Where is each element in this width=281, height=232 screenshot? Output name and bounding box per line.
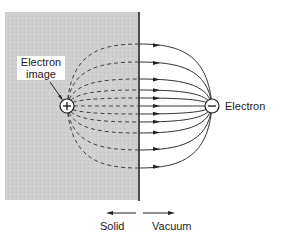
electron-label: Electron — [225, 100, 265, 112]
vacuum-field-lines — [139, 44, 212, 168]
electron-image-label-line1: Electron — [18, 56, 64, 68]
field-direction-arrows — [153, 43, 160, 169]
electron-image-charge — [60, 99, 74, 113]
solid-direction-arrow — [106, 211, 136, 215]
electron-image-label: Electron image — [17, 56, 65, 80]
electron-image-label-line2: image — [18, 68, 64, 80]
vacuum-direction-arrow — [143, 211, 175, 215]
solid-label: Solid — [100, 220, 124, 232]
image-charge-diagram — [0, 0, 281, 232]
electron-charge — [205, 99, 219, 113]
vacuum-label: Vacuum — [152, 220, 192, 232]
